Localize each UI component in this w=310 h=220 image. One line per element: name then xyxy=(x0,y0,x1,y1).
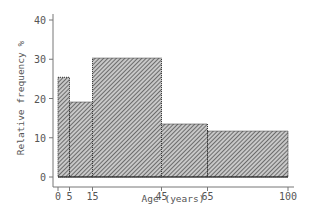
histogram-bars xyxy=(58,58,288,177)
x-tick-label: 0 xyxy=(55,191,61,202)
x-tick-label: 100 xyxy=(279,191,297,202)
histogram-chart: 01020304005154565100 Age (years) Relativ… xyxy=(0,0,310,220)
histogram-bar-0-5 xyxy=(58,77,70,177)
histogram-bar-5-15 xyxy=(70,102,93,177)
y-tick-label: 20 xyxy=(34,94,46,105)
histogram-bar-15-45 xyxy=(93,58,162,177)
x-tick-label: 15 xyxy=(86,191,98,202)
y-tick-label: 10 xyxy=(34,133,46,144)
x-tick-label: 5 xyxy=(66,191,72,202)
y-tick-label: 40 xyxy=(34,15,46,26)
x-axis-label: Age (years) xyxy=(142,193,205,204)
y-tick-label: 0 xyxy=(40,172,46,183)
y-axis-label: Relative frequency % xyxy=(15,41,26,156)
histogram-bar-45-65 xyxy=(162,124,208,177)
y-tick-label: 30 xyxy=(34,54,46,65)
histogram-bar-65-100 xyxy=(208,131,289,177)
